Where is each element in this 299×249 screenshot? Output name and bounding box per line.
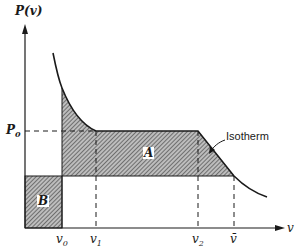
p0-label-sub: 0	[15, 129, 21, 139]
tick-vbar: v̄	[230, 233, 237, 245]
y-axis-arrow-icon	[22, 24, 28, 34]
p0-label: P0	[6, 124, 21, 138]
p0-label-base: P	[6, 123, 15, 137]
region-b-label: B	[37, 195, 49, 207]
tick-v2-sub: 2	[199, 239, 204, 248]
tick-v1-base: v	[90, 232, 97, 246]
region-a-label: A	[143, 147, 154, 159]
tick-v2: v2	[192, 233, 204, 248]
tick-v0-sub: 0	[63, 239, 68, 248]
x-axis-arrow-icon	[275, 225, 285, 231]
tick-v0: v0	[56, 233, 68, 248]
tick-v1: v1	[90, 233, 102, 248]
tick-v1-sub: 1	[97, 239, 102, 248]
tick-v0-base: v	[56, 232, 63, 246]
tick-v2-base: v	[192, 232, 199, 246]
y-axis-label: P(v)	[15, 5, 42, 17]
isotherm-label: Isotherm	[226, 131, 269, 142]
pv-diagram	[0, 0, 299, 249]
region-a-shading	[62, 88, 234, 176]
x-axis-label: v	[287, 222, 294, 234]
tick-vbar-base: v̄	[230, 232, 237, 246]
